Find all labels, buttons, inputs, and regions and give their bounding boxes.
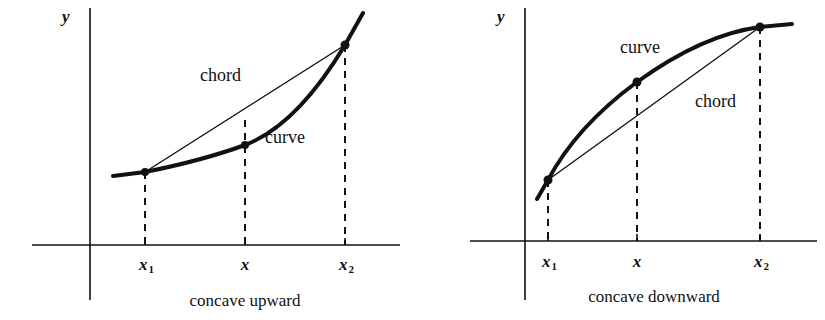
tick-label-x: x [633,253,642,270]
tick-base-x1: x [139,255,148,274]
tick-label-x2: x2 [754,253,768,270]
chord-label: chord [695,92,736,110]
point-x2 [756,23,765,32]
tick-label-x1: x1 [542,253,556,270]
panel-concave-downward: y curve chord x1 x x2 concave downward [412,0,824,320]
concavity-figure: y chord curve x1 x x2 concave upward [0,0,825,320]
tick-sub-x1: 1 [149,263,155,275]
chord-label: chord [200,66,241,84]
curve-label: curve [265,128,305,146]
curve-path [537,24,792,199]
tick-base-x2: x [754,252,763,271]
panel-caption: concave downward [588,288,720,305]
curve-path [113,13,363,176]
point-x1 [141,168,149,176]
point-x [633,78,642,87]
tick-sub-x1: 1 [552,260,558,272]
point-x1 [544,176,553,185]
y-axis-label: y [497,8,505,25]
tick-base-x2: x [339,255,348,274]
panel-caption: concave upward [190,292,301,309]
point-x2 [341,41,350,50]
tick-sub-x2: 2 [764,260,770,272]
tick-base-x1: x [542,252,551,271]
tick-label-x2: x2 [339,256,353,273]
tick-label-x1: x1 [139,256,153,273]
tick-sub-x2: 2 [349,263,355,275]
y-axis-label: y [62,8,70,25]
tick-base-x: x [633,252,642,271]
curve-label: curve [620,38,660,56]
concave-downward-plot [412,0,824,320]
point-x [241,141,249,149]
tick-base-x: x [241,255,250,274]
panel-concave-upward: y chord curve x1 x x2 concave upward [0,0,412,320]
tick-label-x: x [241,256,250,273]
